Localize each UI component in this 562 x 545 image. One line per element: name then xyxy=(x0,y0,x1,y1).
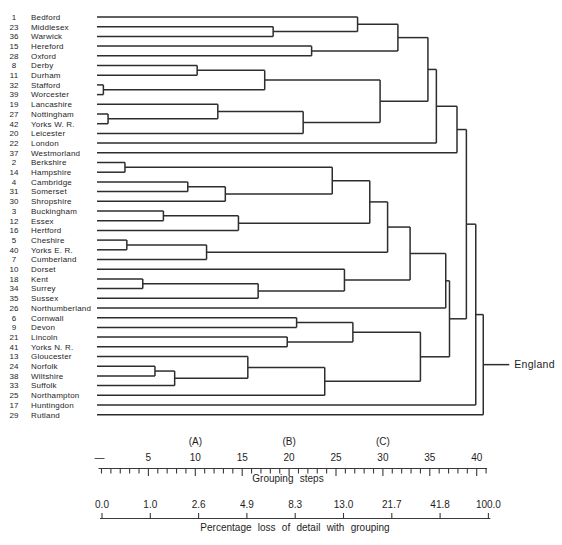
axis1-tick-label: 10 xyxy=(190,452,202,463)
axis1-tick-label: 5 xyxy=(146,452,152,463)
leaf-name: Surrey xyxy=(31,284,56,293)
leaf-number: 10 xyxy=(10,265,19,274)
leaf-name: Nottingham xyxy=(31,110,74,119)
axis1-tick-label: 25 xyxy=(330,452,342,463)
leaf-name: Northumberland xyxy=(31,304,91,313)
leaf-number: 25 xyxy=(10,391,19,400)
leaf-labels: 1Bedford23Middlesex36Warwick15Hereford28… xyxy=(10,13,92,420)
axis2-tick-label: 2.6 xyxy=(192,499,206,510)
leaf-name: Shropshire xyxy=(31,197,72,206)
leaf-name: Durham xyxy=(31,71,61,80)
axis1-tick-label: 20 xyxy=(284,452,296,463)
leaf-number: 8 xyxy=(12,61,17,70)
leaf-number: 36 xyxy=(10,32,19,41)
leaf-number: 34 xyxy=(10,284,19,293)
leaf-number: 9 xyxy=(12,323,17,332)
leaf-name: Essex xyxy=(31,217,54,226)
leaf-number: 19 xyxy=(10,100,19,109)
leaf-number: 1 xyxy=(12,13,17,22)
leaf-number: 42 xyxy=(10,120,19,129)
axis1-marker: (A) xyxy=(189,436,202,447)
leaf-name: Cornwall xyxy=(31,314,64,323)
leaf-name: Leicester xyxy=(31,129,65,138)
leaf-number: 15 xyxy=(10,42,19,51)
axis1-marker: (B) xyxy=(282,436,295,447)
axis1-marker: (C) xyxy=(376,436,390,447)
leaf-number: 37 xyxy=(10,149,19,158)
leaf-number: 33 xyxy=(10,381,19,390)
leaf-name: Derby xyxy=(31,61,53,70)
leaf-name: Westmorland xyxy=(31,149,80,158)
leaf-name: Wiltshire xyxy=(31,372,64,381)
dendrogram-tree xyxy=(97,17,509,415)
leaf-name: Stafford xyxy=(31,81,60,90)
figure-canvas: 1Bedford23Middlesex36Warwick15Hereford28… xyxy=(0,0,562,545)
leaf-name: Hertford xyxy=(31,226,62,235)
leaf-name: Gloucester xyxy=(31,352,72,361)
dendrogram-figure: 1Bedford23Middlesex36Warwick15Hereford28… xyxy=(0,0,562,545)
axis2-tick-label: 41.8 xyxy=(430,499,450,510)
leaf-number: 28 xyxy=(10,52,19,61)
axis2-tick-label: 4.9 xyxy=(240,499,254,510)
leaf-number: 41 xyxy=(10,343,19,352)
leaf-name: Lancashire xyxy=(31,100,72,109)
axis1-tick-label: 35 xyxy=(424,452,436,463)
leaf-name: Northampton xyxy=(31,391,79,400)
leaf-number: 6 xyxy=(12,314,17,323)
leaf-number: 30 xyxy=(10,197,19,206)
leaf-name: Dorset xyxy=(31,265,56,274)
leaf-number: 29 xyxy=(10,411,19,420)
leaf-number: 32 xyxy=(10,81,19,90)
leaf-name: Cumberland xyxy=(31,255,77,264)
leaf-number: 22 xyxy=(10,139,19,148)
leaf-name: Yorks W. R. xyxy=(31,120,75,129)
axis2-tick-label: 100.0 xyxy=(476,499,501,510)
leaf-number: 3 xyxy=(12,207,17,216)
leaf-number: 14 xyxy=(10,168,19,177)
axis1-tick-label: 40 xyxy=(471,452,483,463)
leaf-number: 4 xyxy=(12,178,17,187)
leaf-number: 24 xyxy=(10,362,19,371)
leaf-name: Devon xyxy=(31,323,55,332)
leaf-name: Rutland xyxy=(31,411,60,420)
leaf-name: Suffolk xyxy=(31,381,58,390)
leaf-number: 7 xyxy=(12,255,17,264)
leaf-number: 20 xyxy=(10,129,19,138)
root-label: England xyxy=(514,358,555,370)
leaf-number: 5 xyxy=(12,236,17,245)
leaf-name: Sussex xyxy=(31,294,58,303)
leaf-name: Lincoln xyxy=(31,333,58,342)
leaf-name: Oxford xyxy=(31,52,56,61)
leaf-number: 12 xyxy=(10,217,19,226)
leaf-number: 21 xyxy=(10,333,19,342)
axis1-tick-label: 30 xyxy=(377,452,389,463)
axis2-tick-label: 1.0 xyxy=(143,499,157,510)
leaf-number: 2 xyxy=(12,158,17,167)
leaf-number: 17 xyxy=(10,401,19,410)
leaf-name: Somerset xyxy=(31,187,67,196)
leaf-name: Hampshire xyxy=(31,168,72,177)
leaf-number: 40 xyxy=(10,246,19,255)
leaf-number: 26 xyxy=(10,304,19,313)
leaf-name: Hereford xyxy=(31,42,64,51)
leaf-name: Buckingham xyxy=(31,207,77,216)
axis2-tick-label: 0.0 xyxy=(95,499,109,510)
leaf-number: 23 xyxy=(10,23,19,32)
leaf-number: 39 xyxy=(10,90,19,99)
leaf-number: 38 xyxy=(10,372,19,381)
leaf-name: Cambridge xyxy=(31,178,72,187)
leaf-name: London xyxy=(31,139,59,148)
leaf-number: 35 xyxy=(10,294,19,303)
leaf-number: 18 xyxy=(10,275,19,284)
axis1-tick-label: 15 xyxy=(237,452,249,463)
leaf-name: Yorks N. R. xyxy=(31,343,73,352)
leaf-number: 11 xyxy=(10,71,19,80)
leaf-name: Cheshire xyxy=(31,236,65,245)
leaf-name: Huntingdon xyxy=(31,401,74,410)
axis2-caption: Percentage loss of detail with grouping xyxy=(200,522,389,533)
leaf-name: Middlesex xyxy=(31,23,69,32)
leaf-name: Bedford xyxy=(31,13,60,22)
leaf-number: 27 xyxy=(10,110,19,119)
axis1-caption: Grouping steps xyxy=(252,473,323,484)
axis2-tick-label: 21.7 xyxy=(382,499,402,510)
